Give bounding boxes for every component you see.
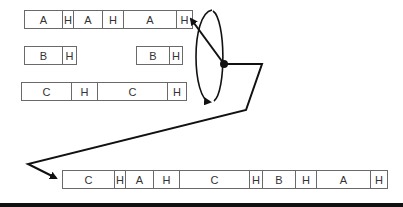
data-segment-a: A: [316, 170, 371, 189]
header-segment: H: [62, 46, 77, 65]
header-segment: H: [102, 10, 124, 29]
header-segment: H: [370, 170, 388, 189]
row-merged: CHAHCHBHAH: [62, 170, 388, 189]
header-segment: H: [169, 46, 183, 65]
row-b-1: BH: [24, 46, 77, 65]
header-segment: H: [167, 82, 187, 101]
bottom-rule: [0, 203, 403, 207]
data-segment-a: A: [73, 10, 103, 29]
data-segment-a: A: [123, 10, 177, 29]
row-c: CHCH: [21, 82, 187, 101]
row-a: AHAHAH: [24, 10, 193, 29]
pivot-dot: [220, 60, 228, 68]
pointer-arrow: [191, 19, 224, 64]
rotation-ellipse-right: [213, 11, 223, 101]
data-segment-b: B: [24, 46, 63, 65]
header-segment: H: [71, 82, 98, 101]
row-b-2: BH: [136, 46, 183, 65]
data-segment-a: A: [24, 10, 63, 29]
data-segment-c: C: [21, 82, 72, 101]
data-segment-c: C: [179, 170, 250, 189]
header-segment: H: [295, 170, 317, 189]
data-segment-a: A: [125, 170, 154, 189]
data-segment-c: C: [62, 170, 115, 189]
header-segment: H: [176, 10, 193, 29]
rotation-ellipse-icon: [196, 10, 212, 102]
data-segment-c: C: [97, 82, 168, 101]
header-segment: H: [249, 170, 263, 189]
data-segment-b: B: [262, 170, 296, 189]
data-segment-b: B: [136, 46, 170, 65]
header-segment: H: [153, 170, 180, 189]
